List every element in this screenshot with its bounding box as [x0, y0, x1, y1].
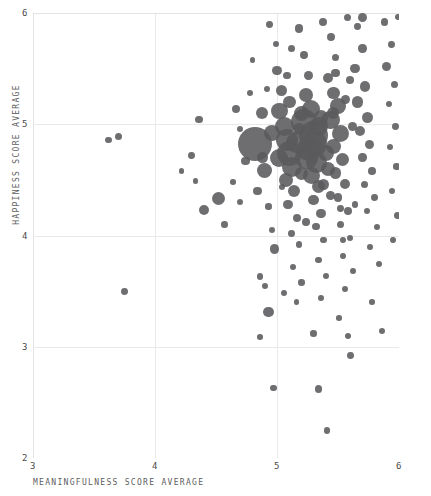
- scatter-point: [250, 57, 256, 63]
- scatter-point: [358, 44, 366, 52]
- scatter-point: [283, 200, 292, 209]
- x-tick-label: 6: [387, 461, 411, 471]
- scatter-point: [301, 131, 327, 157]
- scatter-point: [320, 237, 327, 244]
- scatter-point: [298, 279, 305, 286]
- scatter-point: [348, 122, 357, 131]
- scatter-point: [290, 264, 296, 270]
- y-axis-title: HAPPINESS SCORE AVERAGE: [12, 75, 21, 235]
- scatter-point: [257, 273, 264, 280]
- scatter-point: [230, 179, 236, 185]
- scatter-point: [253, 187, 261, 195]
- scatter-point: [265, 203, 271, 209]
- scatter-point: [350, 64, 360, 74]
- scatter-point: [324, 427, 331, 434]
- scatter-point: [346, 76, 354, 84]
- scatter-point: [344, 14, 351, 21]
- scatter-point: [316, 209, 325, 218]
- scatter-point: [369, 299, 375, 305]
- x-axis-title: MEANINGFULNESS SCORE AVERAGE: [33, 478, 204, 487]
- scatter-point: [295, 24, 304, 33]
- scatter-point: [115, 133, 122, 140]
- scatter-point: [395, 14, 399, 20]
- bubble-scatter-chart: 23456 3456 HAPPINESS SCORE AVERAGE MEANI…: [0, 0, 431, 496]
- scatter-point: [288, 230, 295, 237]
- y-tick-label: 6: [4, 8, 28, 18]
- scatter-point: [288, 185, 300, 197]
- scatter-point: [232, 105, 240, 113]
- scatter-point: [390, 237, 396, 243]
- scatter-point: [389, 188, 395, 194]
- scatter-point: [193, 178, 198, 183]
- scatter-point: [272, 66, 281, 75]
- scatter-point: [327, 33, 335, 41]
- scatter-point: [281, 290, 287, 296]
- scatter-point: [347, 235, 353, 241]
- scatter-points-layer: [33, 13, 399, 458]
- scatter-point: [344, 207, 352, 215]
- scatter-point: [310, 330, 316, 336]
- scatter-point: [262, 283, 268, 289]
- scatter-point: [294, 299, 300, 305]
- scatter-point: [300, 51, 308, 59]
- scatter-point: [387, 144, 393, 150]
- scatter-point: [318, 295, 324, 301]
- scatter-point: [288, 45, 295, 52]
- scatter-point: [340, 237, 346, 243]
- scatter-point: [273, 41, 279, 47]
- scatter-point: [283, 96, 296, 109]
- scatter-point: [279, 184, 285, 190]
- scatter-point: [342, 286, 348, 292]
- scatter-point: [264, 86, 270, 92]
- x-tick-label: 5: [265, 461, 289, 471]
- scatter-point: [121, 288, 128, 295]
- scatter-point: [374, 224, 380, 230]
- scatter-point: [323, 273, 329, 279]
- scatter-point: [195, 116, 202, 123]
- scatter-point: [347, 352, 354, 359]
- scatter-point: [341, 95, 350, 104]
- scatter-point: [361, 181, 368, 188]
- scatter-point: [360, 81, 370, 91]
- scatter-point: [293, 214, 301, 222]
- scatter-point: [392, 123, 399, 130]
- scatter-point: [354, 23, 361, 30]
- scatter-point: [270, 244, 280, 254]
- scatter-point: [237, 199, 243, 205]
- y-tick-label: 3: [4, 342, 28, 352]
- scatter-point: [283, 72, 291, 80]
- scatter-point: [336, 315, 342, 321]
- scatter-point: [247, 90, 253, 96]
- scatter-point: [365, 140, 374, 149]
- scatter-point: [340, 179, 350, 189]
- scatter-point: [319, 18, 327, 26]
- scatter-point: [362, 112, 373, 123]
- scatter-point: [294, 106, 309, 121]
- scatter-point: [371, 194, 378, 201]
- scatter-point: [270, 385, 277, 392]
- scatter-point: [270, 149, 288, 167]
- scatter-point: [257, 152, 268, 163]
- scatter-point: [364, 208, 370, 214]
- scatter-point: [312, 223, 320, 231]
- scatter-point: [379, 328, 385, 334]
- x-tick-label: 3: [21, 461, 45, 471]
- scatter-point: [340, 253, 346, 259]
- scatter-point: [266, 21, 273, 28]
- scatter-point: [199, 205, 209, 215]
- scatter-point: [269, 227, 275, 233]
- scatter-point: [276, 85, 287, 96]
- scatter-point: [386, 101, 392, 107]
- scatter-point: [337, 221, 344, 228]
- scatter-point: [315, 257, 321, 263]
- scatter-point: [296, 241, 302, 247]
- scatter-point: [358, 13, 368, 22]
- scatter-point: [345, 333, 351, 339]
- scatter-point: [304, 71, 313, 80]
- scatter-point: [368, 167, 376, 175]
- scatter-point: [350, 268, 356, 274]
- scatter-point: [337, 205, 344, 212]
- scatter-point: [308, 195, 319, 206]
- scatter-point: [331, 69, 339, 77]
- scatter-point: [256, 107, 268, 119]
